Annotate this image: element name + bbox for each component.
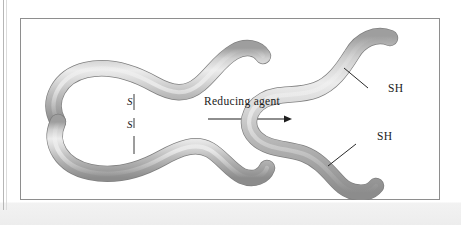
sulfur-label-top: S xyxy=(127,95,133,107)
reducing-agent-label: Reducing agent xyxy=(204,95,280,107)
sulfur-label-bottom: S xyxy=(127,118,133,130)
figure-canvas xyxy=(20,18,440,200)
page-gutter-rule-secondary xyxy=(6,0,7,210)
thiol-label-lower: SH xyxy=(377,130,392,142)
thiol-leader-line-lower xyxy=(328,144,356,166)
thiol-label-upper: SH xyxy=(388,82,403,94)
left-protein-structure xyxy=(54,48,267,178)
protein-diagram-svg xyxy=(20,18,440,200)
figure-page: S S Reducing agent SH SH xyxy=(0,0,461,225)
page-gutter-rule xyxy=(3,0,4,210)
thiol-leader-line-upper xyxy=(344,68,368,88)
